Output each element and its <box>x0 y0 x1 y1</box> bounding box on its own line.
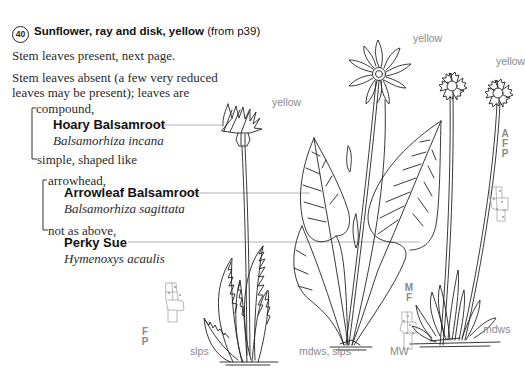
habitat-label-arrowleaf: mdws, slps <box>299 345 351 357</box>
region-code-mw: MW <box>390 345 409 357</box>
flower-color-label-perky-sue: yellow <box>496 55 525 67</box>
range-map-icons <box>166 187 508 349</box>
flower-color-label-arrowleaf: yellow <box>413 32 442 44</box>
flower-color-label-hoary: yellow <box>272 96 301 108</box>
region-codes-hoary: F P <box>140 327 150 347</box>
hoary-balsamroot-illustration <box>204 104 278 365</box>
arrowleaf-balsamroot-illustration <box>294 40 441 350</box>
habitat-label-perky-sue: mdws <box>483 323 510 335</box>
region-codes-perky-sue: A F P <box>500 129 510 159</box>
habitat-label-hoary: slps <box>190 345 209 357</box>
region-codes-arrowleaf: M F <box>404 283 414 303</box>
